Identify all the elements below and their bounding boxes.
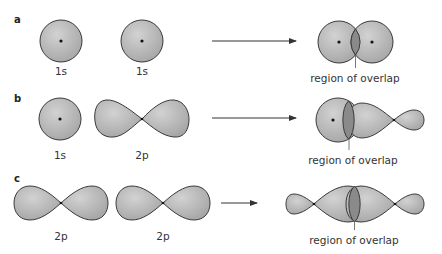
nucleus-dot [58, 117, 61, 120]
orbital-2p-left [14, 186, 108, 220]
panel-label-b: b [14, 93, 21, 104]
overlap-label: region of overlap [310, 72, 400, 84]
orbital-label: 2p [135, 149, 149, 161]
overlap-result-c [286, 186, 424, 230]
orbital-1s-right [121, 20, 163, 62]
orbital-label: 2p [156, 230, 170, 242]
orbital-1s-left [40, 20, 82, 62]
orbital-2p [95, 100, 189, 137]
orbital-1s [39, 98, 81, 140]
orbital-label: 1s [55, 65, 67, 77]
panel-c: c 2p 2p region of overlap [14, 173, 424, 246]
panel-a: a 1s 1s region of overlap [14, 14, 400, 84]
overlap-result-a [318, 21, 393, 68]
panel-label-a: a [14, 14, 21, 25]
overlap-label: region of overlap [308, 154, 398, 166]
overlap-label: region of overlap [309, 234, 399, 246]
nucleus-dot [59, 39, 62, 42]
orbital-overlap-diagram: a 1s 1s region of overlap b 1s [0, 0, 442, 254]
panel-label-c: c [14, 173, 20, 184]
orbital-label: 1s [136, 65, 148, 77]
orbital-label: 1s [54, 149, 66, 161]
overlap-result-b [316, 98, 424, 150]
orbital-2p-right [116, 186, 210, 220]
orbital-label: 2p [54, 230, 68, 242]
nucleus-dot [140, 39, 143, 42]
panel-b: b 1s 2p region of overlap [14, 93, 424, 166]
